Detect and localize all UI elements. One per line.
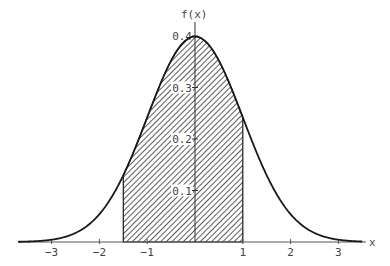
y-axis-label: f(x) [181,8,208,21]
x-tick-label: 2 [287,246,294,259]
x-tick-label: −2 [93,246,106,259]
x-tick-label: −3 [45,246,58,259]
y-tick-label: 0.3 [172,82,192,95]
x-axis-label: x [369,236,376,249]
y-tick-label: 0.2 [172,133,192,146]
x-tick-label: 3 [335,246,342,259]
y-tick-label: 0.1 [172,185,192,198]
x-tick-label: 1 [239,246,246,259]
x-tick-label: −1 [141,246,154,259]
y-tick-label: 0.4 [172,30,192,43]
normal-distribution-chart: −3−2−1123 0.10.20.30.4 f(x) x [0,0,390,266]
